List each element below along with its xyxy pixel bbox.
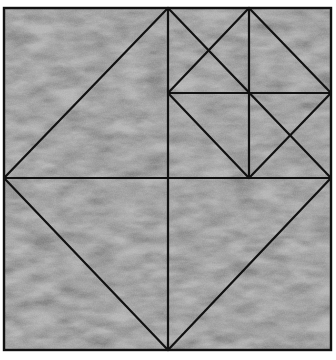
- figure-svg: [0, 0, 336, 360]
- geometric-figure: [0, 0, 336, 360]
